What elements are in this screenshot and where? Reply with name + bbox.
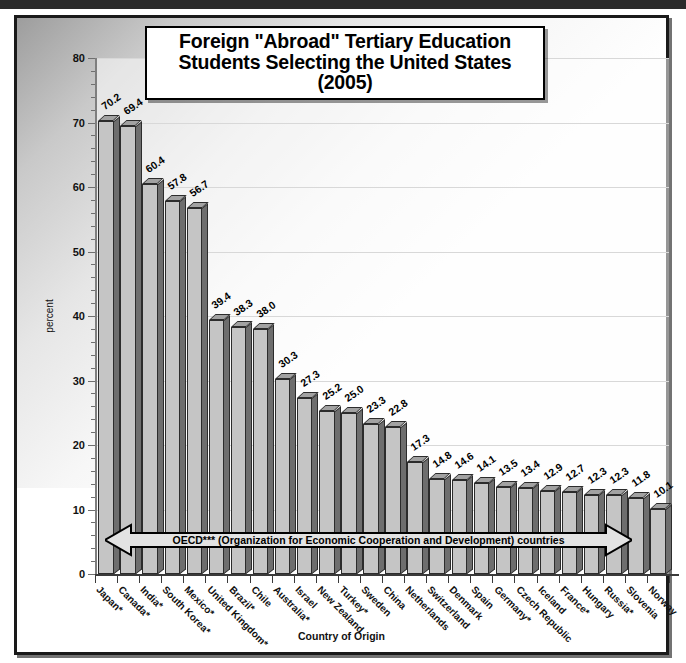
y-axis-tick-label: 60 xyxy=(73,181,85,193)
bar-front-face xyxy=(165,201,180,574)
y-axis-minor-tick xyxy=(91,84,95,85)
x-axis-tick xyxy=(316,576,317,583)
bar-front-face xyxy=(98,121,113,574)
x-axis-tick xyxy=(448,576,449,583)
chart-title-line3: (2005) xyxy=(153,72,537,93)
x-axis-tick xyxy=(470,576,471,583)
y-axis-minor-tick xyxy=(91,110,95,111)
x-axis-tick xyxy=(139,576,140,583)
gridline xyxy=(95,187,669,188)
x-axis-tick xyxy=(95,576,96,583)
x-axis-tick xyxy=(338,576,339,583)
y-axis-minor-tick xyxy=(91,471,95,472)
y-axis-minor-tick xyxy=(91,264,95,265)
y-axis-minor-tick xyxy=(91,355,95,356)
x-axis-tick xyxy=(250,576,251,583)
oecd-annotation-text: OECD*** (Organization for Economic Coope… xyxy=(105,534,632,546)
y-axis-minor-tick xyxy=(91,458,95,459)
y-axis-minor-tick xyxy=(91,71,95,72)
y-axis-minor-tick xyxy=(91,226,95,227)
y-axis-minor-tick xyxy=(91,535,95,536)
bar-side-face xyxy=(202,204,208,574)
y-axis-minor-tick xyxy=(91,432,95,433)
y-axis-minor-tick xyxy=(91,393,95,394)
y-axis-tick xyxy=(88,510,95,511)
y-axis-tick-label: 40 xyxy=(73,310,85,322)
y-axis-minor-tick xyxy=(91,174,95,175)
y-axis-tick xyxy=(88,252,95,253)
x-axis-tick xyxy=(603,576,604,583)
y-axis-minor-tick xyxy=(91,419,95,420)
y-axis-tick xyxy=(88,381,95,382)
y-axis-minor-tick xyxy=(91,497,95,498)
bar: 57.8 xyxy=(165,201,180,574)
y-axis-minor-tick xyxy=(91,200,95,201)
page-top-gap xyxy=(0,9,686,12)
y-axis-tick-label: 80 xyxy=(73,52,85,64)
x-axis-tick xyxy=(426,576,427,583)
x-axis-tick xyxy=(625,576,626,583)
y-axis-minor-tick xyxy=(91,97,95,98)
x-axis-tick xyxy=(272,576,273,583)
x-axis-tick xyxy=(117,576,118,583)
y-axis-tick xyxy=(88,574,95,575)
y-axis-minor-tick xyxy=(91,277,95,278)
y-axis-minor-tick xyxy=(91,329,95,330)
y-axis-minor-tick xyxy=(91,484,95,485)
x-axis-tick xyxy=(669,576,670,583)
y-axis-tick xyxy=(88,316,95,317)
bar: 70.2 xyxy=(98,121,113,574)
x-axis-tick xyxy=(294,576,295,583)
y-axis-tick-label: 10 xyxy=(73,504,85,516)
y-axis-minor-tick xyxy=(91,239,95,240)
y-axis-minor-tick xyxy=(91,135,95,136)
y-axis-minor-tick xyxy=(91,213,95,214)
chart-title-box: Foreign "Abroad" Tertiary Education Stud… xyxy=(145,26,545,100)
y-axis-tick xyxy=(88,58,95,59)
bar-side-face xyxy=(180,197,186,574)
bar-front-face xyxy=(650,509,665,574)
bar-side-face xyxy=(666,504,672,574)
y-axis-minor-tick xyxy=(91,290,95,291)
bar: 60.4 xyxy=(142,184,157,574)
x-axis-tick xyxy=(647,576,648,583)
bar-side-face xyxy=(114,117,120,574)
x-axis-tick xyxy=(161,576,162,583)
y-axis-line xyxy=(95,58,97,574)
y-axis-tick xyxy=(88,123,95,124)
bar: 69.4 xyxy=(120,126,135,574)
x-axis-tick xyxy=(492,576,493,583)
y-axis-minor-tick xyxy=(91,368,95,369)
bar-side-face xyxy=(158,180,164,574)
gridline xyxy=(95,123,669,124)
bar: 10.1 xyxy=(650,509,665,574)
y-axis-tick-label: 30 xyxy=(73,375,85,387)
bar: 56.7 xyxy=(187,208,202,574)
y-axis-title: percent xyxy=(44,299,55,332)
bar-side-face xyxy=(644,493,650,574)
bar: 17.3 xyxy=(407,462,422,574)
chart-title-line2: Students Selecting the United States xyxy=(153,52,537,73)
y-axis-minor-tick xyxy=(91,161,95,162)
y-axis-tick-label: 70 xyxy=(73,117,85,129)
y-axis-tick-label: 20 xyxy=(73,439,85,451)
chart-frame: Foreign "Abroad" Tertiary Education Stud… xyxy=(14,15,669,655)
x-axis-tick xyxy=(514,576,515,583)
x-axis-title: Country of Origin xyxy=(17,630,666,642)
oecd-annotation-arrow: OECD*** (Organization for Economic Coope… xyxy=(105,523,632,557)
x-axis-tick xyxy=(227,576,228,583)
y-axis-tick xyxy=(88,445,95,446)
y-axis-tick-label: 0 xyxy=(79,568,85,580)
bar-front-face xyxy=(187,208,202,574)
bar-front-face xyxy=(407,462,422,574)
plot-area: 01020304050607080 percent 70.269.460.457… xyxy=(95,58,669,574)
x-axis-tick xyxy=(559,576,560,583)
x-axis-tick xyxy=(183,576,184,583)
x-axis-tick xyxy=(404,576,405,583)
x-axis-tick xyxy=(360,576,361,583)
y-axis-minor-tick xyxy=(91,342,95,343)
y-axis-minor-tick xyxy=(91,406,95,407)
x-axis-tick xyxy=(537,576,538,583)
y-axis-tick xyxy=(88,187,95,188)
y-axis-minor-tick xyxy=(91,548,95,549)
